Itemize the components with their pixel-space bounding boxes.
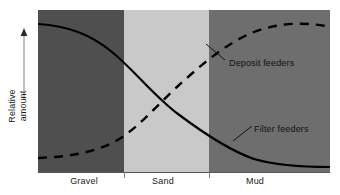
annotation-filter-feeders: Filter feeders — [254, 124, 309, 134]
y-axis-label: Relative amount — [7, 66, 29, 146]
x-axis-label-mud: Mud — [232, 176, 278, 186]
plot-area — [38, 10, 330, 172]
y-axis-label-line2: amount — [18, 66, 29, 146]
curves-svg — [38, 10, 330, 172]
series-line-deposit-feeders — [38, 24, 330, 158]
x-axis-tick-2 — [209, 172, 210, 178]
chart-figure: Relative amount Deposit feeders Filter f… — [0, 0, 340, 195]
x-axis-line — [38, 172, 330, 173]
series-line-filter-feeders — [38, 24, 330, 167]
y-axis-label-line1: Relative — [7, 66, 18, 146]
x-axis-label-sand: Sand — [140, 176, 186, 186]
x-axis-tick-1 — [124, 172, 125, 178]
annotation-deposit-feeders: Deposit feeders — [229, 58, 294, 68]
x-axis-label-gravel: Gravel — [56, 176, 112, 186]
